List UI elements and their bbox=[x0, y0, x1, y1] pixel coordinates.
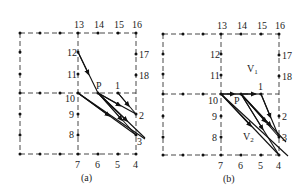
node-label-P: P bbox=[96, 80, 102, 91]
node-label-17: 17 bbox=[282, 50, 292, 61]
node-label-6: 6 bbox=[95, 159, 100, 170]
node-label-6: 6 bbox=[238, 160, 243, 171]
node-label-3: 3 bbox=[282, 132, 287, 143]
node-label-13: 13 bbox=[217, 20, 227, 31]
node-label-1: 1 bbox=[258, 81, 263, 92]
node-label-14: 14 bbox=[94, 19, 104, 30]
node-label-12: 12 bbox=[67, 47, 77, 58]
node-label-16: 16 bbox=[132, 19, 142, 30]
node-label-11: 11 bbox=[67, 69, 77, 80]
node-label-18: 18 bbox=[282, 71, 292, 82]
node-label-8: 8 bbox=[69, 129, 74, 140]
panel-a: 13 14 15 16 17 18 1 2 3 4 5 6 7 8 9 10 1… bbox=[19, 19, 150, 184]
node-label-12: 12 bbox=[210, 49, 220, 60]
panel-b-rays bbox=[221, 94, 288, 156]
node-label-7: 7 bbox=[218, 160, 223, 171]
node-label-3: 3 bbox=[137, 136, 142, 147]
panel-b: 13 14 15 16 17 18 1 2 3 4 5 6 7 8 9 10 1… bbox=[162, 20, 293, 185]
node-label-14: 14 bbox=[237, 20, 247, 31]
node-label-16: 16 bbox=[275, 20, 285, 31]
node-label-2: 2 bbox=[282, 111, 287, 122]
node-label-5: 5 bbox=[115, 159, 120, 170]
node-label-1: 1 bbox=[115, 80, 120, 91]
node-label-4: 4 bbox=[276, 160, 281, 171]
region-label-v1: V1 bbox=[247, 63, 258, 76]
node-label-10: 10 bbox=[208, 95, 218, 106]
node-label-13: 13 bbox=[74, 19, 84, 30]
node-label-15: 15 bbox=[257, 20, 267, 31]
node-label-15: 15 bbox=[114, 19, 124, 30]
node-label-17: 17 bbox=[139, 49, 149, 60]
node-label-5: 5 bbox=[258, 160, 263, 171]
node-label-10: 10 bbox=[65, 93, 75, 104]
figure: 13 14 15 16 17 18 1 2 3 4 5 6 7 8 9 10 1… bbox=[0, 0, 305, 192]
node-label-7: 7 bbox=[75, 159, 80, 170]
panel-b-caption: (b) bbox=[223, 173, 235, 185]
node-label-18: 18 bbox=[139, 70, 149, 81]
node-label-11: 11 bbox=[210, 70, 220, 81]
node-label-2: 2 bbox=[139, 110, 144, 121]
node-label-9: 9 bbox=[212, 111, 217, 122]
node-label-8: 8 bbox=[212, 132, 217, 143]
panel-a-caption: (a) bbox=[81, 172, 92, 184]
node-label-P: P bbox=[234, 95, 240, 106]
node-label-4: 4 bbox=[133, 159, 138, 170]
node-label-9: 9 bbox=[69, 109, 74, 120]
panel-a-rays bbox=[78, 52, 145, 139]
region-label-v2: V2 bbox=[243, 131, 254, 144]
